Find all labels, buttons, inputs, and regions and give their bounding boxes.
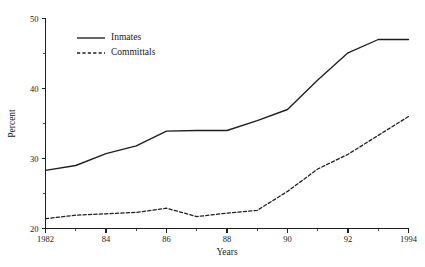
chart-legend: InmatesCommittals (77, 32, 156, 57)
x-tick-label: 86 (162, 234, 171, 244)
x-tick-label: 1982 (37, 234, 54, 244)
y-tick-label: 20 (30, 224, 39, 234)
x-tick-label: 84 (102, 234, 111, 244)
chart-figure: 20304050198284868890921994 InmatesCommit… (0, 0, 425, 267)
y-axis-title: Percent (7, 109, 17, 138)
data-series-group (46, 40, 409, 219)
legend-label-inmates: Inmates (111, 32, 141, 42)
x-tick-label: 88 (223, 234, 232, 244)
x-tick-label: 1994 (400, 234, 418, 244)
line-chart-canvas: 20304050198284868890921994 InmatesCommit… (0, 0, 425, 267)
legend-label-committals: Committals (111, 47, 156, 57)
y-tick-label: 30 (30, 154, 39, 164)
y-tick-label: 40 (30, 84, 39, 94)
x-axis-title: Years (216, 247, 238, 257)
x-tick-label: 90 (283, 234, 292, 244)
series-line-committals (46, 117, 409, 219)
y-tick-label: 50 (30, 14, 39, 24)
x-tick-label: 92 (344, 234, 353, 244)
